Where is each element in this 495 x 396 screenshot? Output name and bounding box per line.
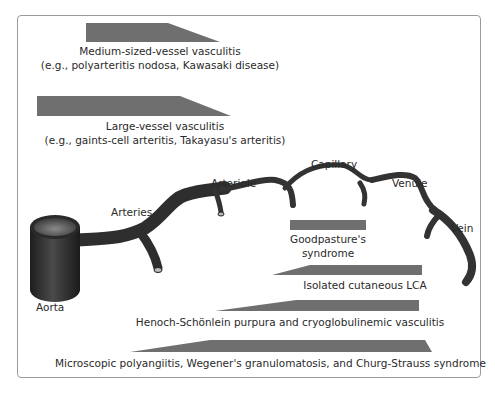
goodpasture-label-line1: Goodpasture's [278, 233, 378, 246]
henoch-range-bar [215, 300, 419, 311]
henoch-label: Henoch-Schönlein purpura and cryoglobuli… [130, 316, 450, 329]
medium-vessel-examples: (e.g., polyarteritis nodosa, Kawasaki di… [30, 59, 290, 72]
microscopic-label: Microscopic polyangiitis, Wegener's gran… [55, 357, 475, 370]
medium-vessel-title: Medium-sized-vessel vasculitis [60, 45, 260, 58]
goodpasture-range-bar [290, 220, 366, 230]
goodpasture-label-line2: syndrome [278, 247, 378, 260]
vein-label: Vein [451, 222, 473, 235]
microscopic-range-bar [130, 340, 432, 352]
arteries-label: Arteries [111, 206, 152, 219]
capillary-label: Capillary [311, 158, 357, 171]
aorta-label: Aorta [36, 301, 64, 314]
venule-label: Venule [392, 177, 428, 190]
cutaneous-lca-range-bar [272, 265, 422, 275]
large-vessel-range-bar [37, 96, 231, 116]
large-vessel-title: Large-vessel vasculitis [65, 120, 265, 133]
artery-branch-opening [154, 268, 162, 273]
aorta-cylinder [30, 215, 80, 302]
large-vessel-examples: (e.g., gaints-cell arteritis, Takayasu's… [25, 134, 305, 147]
medium-vessel-range-bar [86, 23, 220, 42]
arteriole-label: Arteriole [211, 177, 256, 190]
cutaneous-lca-label: Isolated cutaneous LCA [280, 279, 450, 292]
arteriole-branch-opening [218, 212, 224, 216]
